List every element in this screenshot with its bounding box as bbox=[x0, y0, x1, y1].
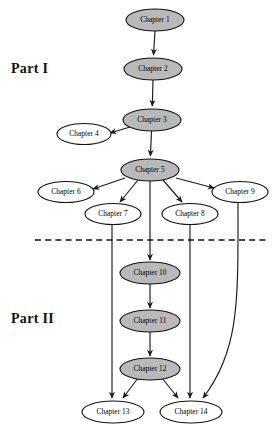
node-label-ch10: Chapter 10 bbox=[133, 268, 166, 277]
edge-ch12-to-ch14 bbox=[162, 378, 178, 398]
section-label-part-1: Part I bbox=[11, 61, 48, 77]
node-ch8[interactable]: Chapter 8 bbox=[162, 204, 218, 225]
node-ch6[interactable]: Chapter 6 bbox=[38, 182, 94, 203]
node-ch2[interactable]: Chapter 2 bbox=[124, 58, 182, 80]
edge-ch3-to-ch5 bbox=[150, 131, 151, 156]
edge-ch1-to-ch2 bbox=[154, 31, 156, 55]
edge-ch5-to-ch7 bbox=[120, 180, 138, 202]
node-ch4[interactable]: Chapter 4 bbox=[57, 124, 111, 145]
node-layer: Chapter 1Chapter 2Chapter 3Chapter 4Chap… bbox=[38, 9, 268, 423]
node-label-ch11: Chapter 11 bbox=[134, 316, 167, 325]
node-ch13[interactable]: Chapter 13 bbox=[82, 401, 144, 423]
node-label-ch7: Chapter 7 bbox=[98, 209, 128, 218]
edge-ch12-to-ch13 bbox=[123, 378, 138, 398]
section-label-part-2: Part II bbox=[11, 311, 54, 327]
node-label-ch2: Chapter 2 bbox=[138, 64, 168, 73]
node-label-ch13: Chapter 13 bbox=[96, 407, 129, 416]
flowchart-canvas: Chapter 1Chapter 2Chapter 3Chapter 4Chap… bbox=[0, 0, 272, 437]
node-ch5[interactable]: Chapter 5 bbox=[121, 159, 179, 181]
edge-ch5-to-ch8 bbox=[163, 180, 182, 202]
node-ch3[interactable]: Chapter 3 bbox=[123, 109, 181, 131]
node-ch7[interactable]: Chapter 7 bbox=[85, 204, 141, 225]
edge-ch5-to-ch9 bbox=[176, 178, 214, 188]
node-ch14[interactable]: Chapter 14 bbox=[160, 401, 222, 423]
edge-ch9-to-ch14 bbox=[203, 203, 238, 398]
node-label-ch1: Chapter 1 bbox=[140, 15, 170, 24]
node-ch11[interactable]: Chapter 11 bbox=[120, 310, 180, 332]
node-label-ch9: Chapter 9 bbox=[225, 187, 255, 196]
edge-ch2-to-ch3 bbox=[152, 80, 153, 106]
edge-ch5-to-ch6 bbox=[93, 178, 125, 189]
node-label-ch12: Chapter 12 bbox=[133, 364, 166, 373]
node-ch9[interactable]: Chapter 9 bbox=[212, 182, 268, 203]
node-label-ch5: Chapter 5 bbox=[135, 165, 165, 174]
node-ch12[interactable]: Chapter 12 bbox=[120, 358, 180, 380]
edge-ch3-to-ch4 bbox=[110, 127, 130, 133]
node-label-ch4: Chapter 4 bbox=[69, 129, 99, 138]
node-label-ch6: Chapter 6 bbox=[51, 187, 81, 196]
node-label-ch8: Chapter 8 bbox=[175, 209, 205, 218]
node-label-ch14: Chapter 14 bbox=[174, 407, 207, 416]
node-ch10[interactable]: Chapter 10 bbox=[120, 262, 180, 284]
node-ch1[interactable]: Chapter 1 bbox=[126, 9, 184, 31]
node-label-ch3: Chapter 3 bbox=[137, 115, 167, 124]
